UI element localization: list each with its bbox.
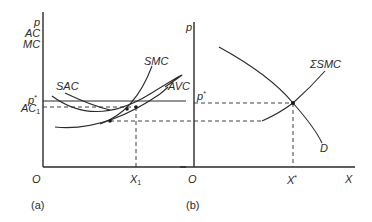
ac1-sub: 1	[36, 108, 40, 115]
demand-curve	[219, 47, 322, 143]
panel-a-origin-label: O	[32, 174, 41, 185]
panel-b-origin-label: O	[188, 174, 197, 185]
supply-label: ΣSMC	[310, 59, 341, 70]
avc-min-point	[108, 119, 112, 123]
pstar-b-sup: *	[203, 90, 206, 97]
panel-b-xstar-label: X*	[287, 174, 297, 186]
smc-label: SMC	[144, 56, 168, 67]
panel-b-pstar-label: p*	[197, 90, 206, 102]
panel-a-ac1-label: AC1	[21, 103, 40, 115]
ac1-text: AC	[21, 102, 36, 114]
panel-b-y-label-p: p	[186, 22, 192, 33]
sac-min-point	[125, 107, 129, 111]
avc-curve-end	[160, 87, 168, 94]
sac-label: SAC	[56, 81, 79, 92]
demand-label: D	[320, 143, 328, 154]
xstar-sup: *	[294, 174, 297, 181]
smc-curve	[100, 66, 152, 124]
panel-b-x-axis-label: X	[345, 174, 352, 185]
x1-sub: 1	[137, 179, 141, 186]
avc-label: AVC	[168, 81, 190, 92]
diagram-canvas	[0, 0, 372, 222]
market-equilibrium-point	[291, 101, 295, 105]
equilibrium-point-a	[134, 105, 138, 109]
pstar-sup: *	[34, 94, 37, 101]
panel-a-x1-label: X1	[130, 174, 141, 186]
supply-curve-sigma-smc	[262, 71, 325, 121]
panel-a-caption: (a)	[31, 200, 44, 211]
panel-a-y-label-mc: MC	[23, 39, 40, 50]
panel-b-caption: (b)	[186, 200, 199, 211]
